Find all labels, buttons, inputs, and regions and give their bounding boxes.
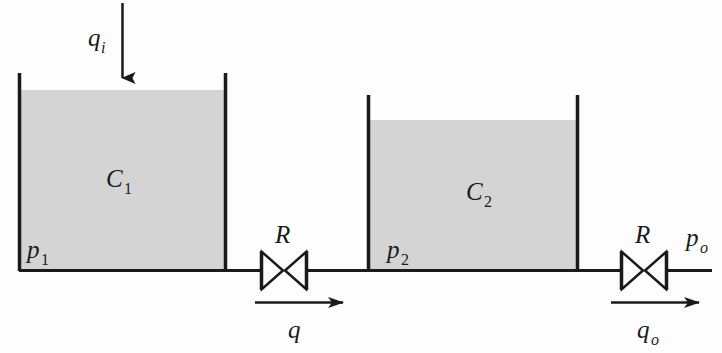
capacitance-1-label: C — [106, 165, 123, 192]
intermediate-flow-label: q — [288, 316, 301, 343]
inlet-flow-label-subscript: i — [101, 39, 105, 56]
capacitance-2-label-subscript: 2 — [484, 193, 492, 210]
capacitance-1-label-subscript: 1 — [124, 180, 132, 197]
outlet-flow-label-subscript: o — [651, 331, 659, 348]
resistance-2-label: R — [634, 221, 650, 248]
pressure-2-label: p — [385, 236, 400, 263]
pressure-out-label: p — [684, 224, 699, 251]
diagram-canvas: q i C 1 p 1 C 2 p 2 R R p o q q o — [0, 0, 722, 353]
capacitance-2-label: C — [466, 178, 483, 205]
valve-2-group — [621, 251, 667, 290]
pressure-out-label-subscript: o — [700, 239, 708, 256]
pressure-1-label: p — [25, 236, 40, 263]
valve-2-right-triangle — [645, 252, 666, 289]
valve-1-right-triangle — [285, 252, 306, 289]
valve-1-left-triangle — [262, 252, 283, 289]
pressure-2-label-subscript: 2 — [401, 251, 409, 268]
outlet-flow-label: q — [637, 316, 650, 343]
valve-2-left-triangle — [622, 252, 643, 289]
inlet-flow-label: q — [88, 24, 101, 51]
valve-1-group — [261, 251, 307, 290]
fluid-system-diagram: q i C 1 p 1 C 2 p 2 R R p o q q o — [0, 0, 722, 353]
pressure-1-label-subscript: 1 — [41, 251, 49, 268]
resistance-1-label: R — [274, 221, 290, 248]
